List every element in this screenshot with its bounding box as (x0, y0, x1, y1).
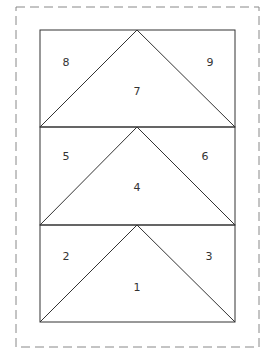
unit-rectangle (40, 30, 235, 127)
piece-label: 8 (63, 56, 70, 69)
seam-allowance-dashed-border (16, 7, 259, 347)
unit-row-top: 8 9 7 (40, 30, 235, 127)
unit-rectangle (40, 127, 235, 225)
goose-triangle (40, 127, 235, 225)
unit-rectangle (40, 225, 235, 322)
piece-label: 1 (134, 281, 141, 294)
piece-label: 4 (134, 181, 141, 194)
unit-row-middle: 5 6 4 (40, 127, 235, 225)
piece-label: 7 (134, 85, 141, 98)
goose-triangle (40, 225, 235, 322)
piece-label: 2 (63, 250, 70, 263)
goose-triangle (40, 30, 235, 127)
piece-label: 5 (63, 150, 70, 163)
unit-row-bottom: 2 3 1 (40, 225, 235, 322)
piece-label: 6 (202, 150, 209, 163)
piece-label: 9 (207, 56, 214, 69)
piece-label: 3 (206, 250, 213, 263)
quilt-diagram: 8 9 7 5 6 4 2 3 1 (0, 0, 269, 358)
